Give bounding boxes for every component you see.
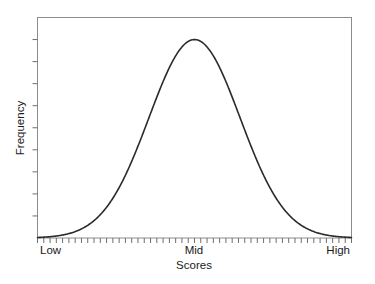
x-tick-label-high: High xyxy=(326,244,350,256)
y-axis-title: Frequency xyxy=(14,101,26,156)
x-axis-title: Scores xyxy=(176,259,212,271)
chart-figure: Low Mid High Scores Frequency xyxy=(0,0,375,284)
x-tick-label-mid: Mid xyxy=(185,244,204,256)
distribution-chart: Low Mid High Scores Frequency xyxy=(0,0,375,284)
x-tick-label-low: Low xyxy=(40,244,62,256)
